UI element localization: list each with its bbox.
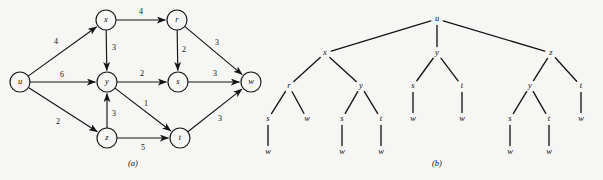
tree-node-label-n15: w	[459, 113, 465, 123]
graph-edge-x-y	[106, 30, 107, 71]
tree-node-label-n23: w	[546, 146, 552, 156]
graph-edge-t-w	[188, 89, 242, 132]
tree-node-label-n7: t	[461, 80, 464, 90]
graph-node-label-y: y	[104, 76, 109, 86]
tree-edge-x-y	[330, 57, 356, 81]
tree-node-label-n19: w	[265, 146, 271, 156]
graph-edge-weight-u-z: 2	[56, 117, 60, 126]
tree-edge-z-y	[533, 58, 547, 80]
graph-weight-layer: 4624335212333	[54, 7, 222, 152]
tree-node-label-n14: w	[410, 113, 416, 123]
tree-node-label-n9: t	[580, 80, 583, 90]
tree-node-label-n11: w	[304, 113, 310, 123]
graph-edge-weight-x-y: 3	[112, 43, 116, 52]
tree-edge-r-s	[271, 91, 285, 113]
graph-edge-weight-y-s: 2	[140, 69, 144, 78]
panel-caption-a: (a)	[128, 158, 138, 168]
panel-caption-b: (b)	[432, 158, 442, 168]
graph-edge-u-z	[28, 87, 97, 131]
graph-edge-r-w	[185, 26, 243, 74]
graph-edge-weight-r-s: 2	[182, 45, 186, 54]
tree-edge-u-z	[443, 21, 545, 51]
graph-edge-weight-z-y: 3	[112, 109, 116, 118]
graph-node-w: w	[241, 72, 261, 92]
graph-node-t: t	[170, 128, 190, 148]
graph-node-layer: uxyzrstw	[10, 10, 261, 148]
graph-edge-r-s	[177, 30, 178, 71]
graph-node-x: x	[96, 10, 116, 30]
graph-node-r: r	[167, 10, 187, 30]
tree-edge-y-t	[364, 92, 377, 114]
tree-edge-r-w	[292, 92, 304, 114]
graph-edge-weight-y-t: 1	[144, 99, 148, 108]
graph-node-label-w: w	[248, 76, 254, 86]
tree-node-layer: uxyzrystytswstwwstwwwwww	[265, 13, 584, 156]
graph-node-s: s	[168, 72, 188, 92]
graph-edge-weight-u-x: 4	[54, 37, 58, 46]
tree-node-label-n18: w	[578, 113, 584, 123]
tree-edge-y-s	[417, 58, 433, 80]
tree-node-label-n5: y	[358, 80, 363, 90]
figure-graph-and-tree: 4624335212333 uxyzrstw uxyzrystytswstwws…	[0, 0, 603, 180]
tree-node-label-n13: t	[380, 113, 383, 123]
graph-node-label-u: u	[18, 76, 22, 86]
graph-edge-weight-r-w: 3	[215, 38, 219, 47]
graph-node-label-x: x	[103, 14, 108, 24]
tree-node-label-n8: y	[527, 80, 532, 90]
tree-node-label-n2: y	[434, 47, 439, 57]
tree-node-label-n10: s	[266, 113, 270, 123]
graph-node-z: z	[97, 128, 117, 148]
tree-node-label-n3: z	[548, 47, 553, 57]
tree-node-label-n22: w	[507, 146, 513, 156]
graph-edge-weight-u-y: 6	[60, 70, 64, 79]
tree-edge-y-s	[513, 92, 526, 114]
graph-edge-weight-z-t: 5	[141, 143, 145, 152]
graph-node-u: u	[10, 72, 30, 92]
graph-edge-weight-x-r: 4	[139, 7, 143, 16]
graph-edge-layer	[28, 20, 242, 138]
tree-edge-y-t	[441, 58, 458, 81]
tree-node-label-n16: s	[508, 113, 512, 123]
graph-edge-weight-t-w: 3	[218, 114, 222, 123]
tree-node-label-n12: s	[340, 113, 344, 123]
graph-edge-weight-s-w: 3	[213, 69, 217, 78]
tree-node-label-n1: x	[322, 47, 327, 57]
tree-edge-y-t	[533, 92, 546, 114]
graph-edge-y-t	[115, 88, 171, 131]
tree-edge-u-x	[331, 21, 431, 51]
tree-edge-z-t	[555, 58, 576, 81]
panel-captions: (a)(b)	[128, 158, 442, 168]
graph-edge-u-x	[28, 27, 97, 76]
tree-node-label-n21: w	[378, 146, 384, 156]
tree-node-label-n6: s	[411, 80, 415, 90]
graph-node-y: y	[97, 72, 117, 92]
tree-node-label-n0: u	[435, 13, 439, 23]
tree-node-label-n17: t	[548, 113, 551, 123]
tree-edge-x-r	[294, 57, 320, 81]
tree-node-label-n4: r	[287, 80, 291, 90]
graph-node-label-z: z	[104, 132, 109, 142]
tree-edge-layer	[268, 21, 581, 146]
tree-node-label-n20: w	[339, 146, 345, 156]
tree-edge-y-s	[345, 92, 358, 114]
